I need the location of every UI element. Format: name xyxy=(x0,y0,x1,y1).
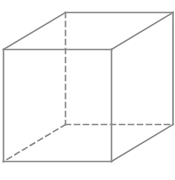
hidden-edge-back_bottom_left-to-front_bottom_left xyxy=(4,125,66,162)
cube-diagram xyxy=(0,0,175,180)
visible-edge-front_top_left-to-back_top_left xyxy=(4,13,66,50)
visible-edges xyxy=(4,13,174,162)
cube-wireframe-svg xyxy=(0,0,175,180)
visible-edge-front_bottom_right-to-back_bottom_right xyxy=(112,125,174,162)
visible-edge-front_top_right-to-back_top_right xyxy=(112,13,174,50)
